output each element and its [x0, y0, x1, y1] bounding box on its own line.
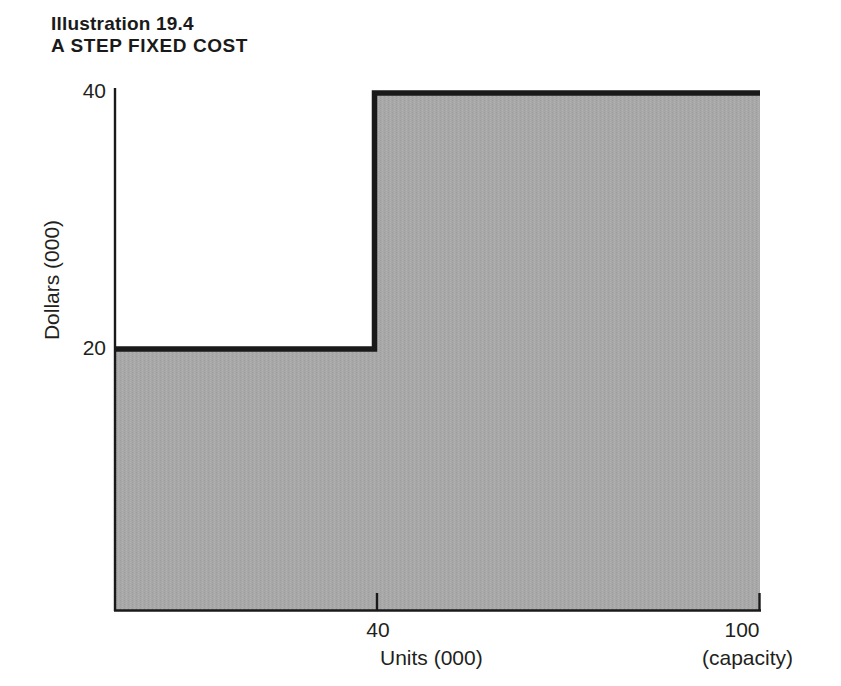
x-axis-tick-label-100: 100	[712, 618, 772, 642]
step-fixed-cost-chart: 40 20 40 100 Dollars (000) Units (000) (…	[0, 0, 841, 686]
y-axis-tick-label-40: 40	[78, 79, 106, 103]
y-axis-tick-label-20: 20	[78, 336, 106, 360]
x-axis-capacity-note: (capacity)	[702, 646, 782, 670]
x-axis-title: Units (000)	[380, 646, 483, 670]
x-axis-tick-label-40: 40	[354, 618, 402, 642]
chart-plot-area	[0, 0, 841, 686]
y-axis-title: Dollars (000)	[40, 200, 64, 360]
